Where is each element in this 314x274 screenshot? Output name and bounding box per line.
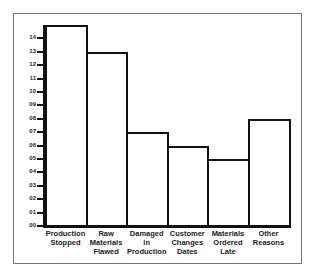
y-tick [37, 225, 44, 227]
y-tick-label: 08 [18, 115, 36, 121]
bar [126, 132, 169, 226]
y-tick [37, 131, 44, 133]
y-tick-label: 13 [18, 48, 36, 54]
bar [45, 25, 88, 226]
bar [86, 52, 129, 226]
category-label: RawMaterialsFlawed [85, 229, 127, 256]
y-tick [37, 64, 44, 66]
y-tick-label: 03 [18, 182, 36, 188]
category-label: CustomerChangesDates [166, 229, 208, 256]
y-tick-label: 04 [18, 168, 36, 174]
y-tick [37, 78, 44, 80]
y-axis [43, 25, 46, 227]
y-tick-label: 00 [18, 222, 36, 228]
y-tick-label: 12 [18, 61, 36, 67]
y-tick-label: 14 [18, 34, 36, 40]
y-tick-label: 05 [18, 155, 36, 161]
y-tick [37, 51, 44, 53]
y-tick-label: 11 [18, 75, 36, 81]
y-tick [37, 145, 44, 147]
y-tick-label: 01 [18, 209, 36, 215]
y-tick [37, 158, 44, 160]
x-axis [43, 225, 291, 228]
y-tick [37, 104, 44, 106]
category-label: DamagedinProduction [126, 229, 168, 256]
y-tick [37, 171, 44, 173]
category-label: MaterialsOrderedLate [207, 229, 249, 256]
y-tick [37, 37, 44, 39]
y-tick [37, 212, 44, 214]
category-label: OtherReasons [248, 229, 290, 247]
bar [248, 119, 291, 226]
y-tick-label: 10 [18, 88, 36, 94]
y-tick-label: 02 [18, 195, 36, 201]
bar [207, 159, 250, 226]
y-tick [37, 198, 44, 200]
y-tick-label: 06 [18, 142, 36, 148]
bar [167, 146, 210, 226]
category-label: ProductionStopped [45, 229, 87, 247]
y-tick [37, 118, 44, 120]
y-tick [37, 91, 44, 93]
y-tick [37, 185, 44, 187]
y-tick-label: 07 [18, 128, 36, 134]
y-tick-label: 09 [18, 101, 36, 107]
